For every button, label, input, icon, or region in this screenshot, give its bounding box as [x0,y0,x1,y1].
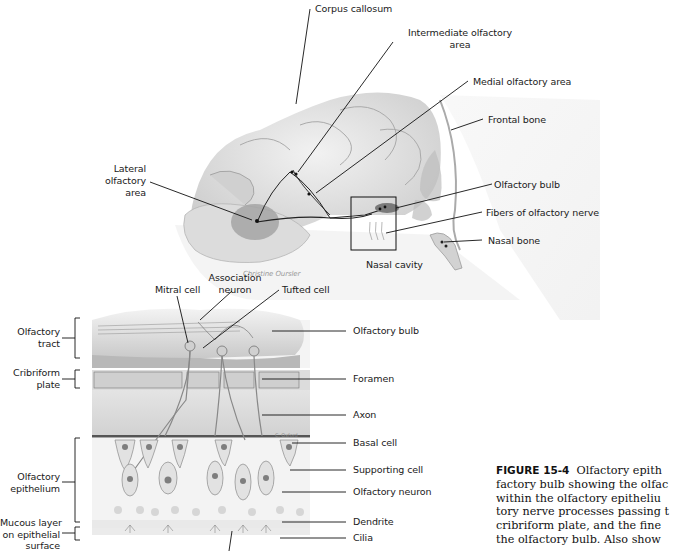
label-dendrite: Dendrite [353,516,394,528]
label-line: Association [205,272,265,284]
label-olfactory-neuron: Olfactory neuron [353,486,431,498]
figure-number: FIGURE 15-4 [496,464,569,476]
caption-line: tory nerve processes passing t [496,505,674,519]
label-tufted-cell: Tufted cell [282,284,329,296]
label-olfactory-tract: Olfactory tract [0,326,60,350]
label-line: plate [0,379,60,391]
caption-line: factory bulb showing the olfac [496,478,674,492]
label-cribriform-plate: Cribriform plate [0,367,60,391]
caption-line: cribriform plate, and the fine [496,519,674,533]
label-nasal-cavity: Nasal cavity [366,259,423,271]
label-line: on epithelial [0,529,60,541]
label-foramen: Foramen [353,373,394,385]
label-line: area [80,187,146,199]
caption-text: Olfactory epith [577,464,662,477]
label-frontal-bone: Frontal bone [488,114,546,126]
label-corpus-callosum: Corpus callosum [315,3,392,15]
label-supporting-cell: Supporting cell [353,464,423,476]
label-cilia: Cilia [353,532,373,544]
label-mucous-layer: Mucous layer on epithelial surface [0,517,60,551]
label-intermediate-olfactory-area: Intermediate olfactory area [405,27,515,51]
label-line: Mucous layer [0,517,60,529]
label-association-neuron: Association neuron [205,272,265,296]
artist-signature-bottom: C. Oxford [275,429,298,441]
label-nasal-bone: Nasal bone [488,235,540,247]
label-olfactory-bulb-bottom: Olfactory bulb [353,325,419,337]
figure-caption: FIGURE 15-4 Olfactory epith factory bulb… [496,464,674,547]
label-line: surface [0,540,60,551]
label-mitral-cell: Mitral cell [155,284,200,296]
label-line: Lateral [80,163,146,175]
epithelium-section [62,290,346,551]
label-line: neuron [205,284,265,296]
label-line: Cribriform [0,367,60,379]
label-line: Olfactory [0,471,60,483]
label-fibers-olfactory-nerve: Fibers of olfactory nerve [486,207,599,219]
label-axon: Axon [353,409,376,421]
label-line: area [405,39,515,51]
label-lateral-olfactory-area: Lateral olfactory area [80,163,146,199]
label-basal-cell: Basal cell [353,437,397,449]
caption-line: FIGURE 15-4 Olfactory epith [496,464,674,478]
label-line: olfactory [80,175,146,187]
label-line: epithelium [0,483,60,495]
label-olfactory-epithelium: Olfactory epithelium [0,471,60,495]
label-line: Olfactory [0,326,60,338]
label-line: tract [0,338,60,350]
label-medial-olfactory-area: Medial olfactory area [473,76,571,88]
caption-line: within the olfactory epitheliu [496,492,674,506]
label-olfactory-bulb-top: Olfactory bulb [494,179,560,191]
caption-line: the olfactory bulb. Also show [496,533,674,547]
label-line: Intermediate olfactory [405,27,515,39]
